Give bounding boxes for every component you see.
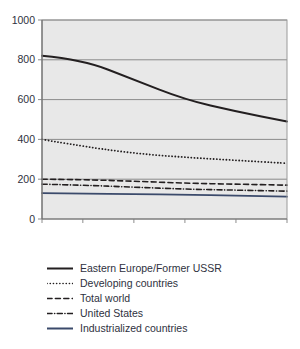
legend-label: Industrialized countries (80, 323, 187, 334)
legend-label: Eastern Europe/Former USSR (80, 263, 222, 274)
y-tick-label: 200 (17, 173, 35, 185)
chart-legend: Eastern Europe/Former USSRDeveloping cou… (47, 261, 297, 336)
legend-item: Total world (47, 291, 297, 306)
y-tick-label: 600 (17, 93, 35, 105)
legend-swatch-solid-icon (47, 263, 73, 274)
legend-item: Developing countries (47, 276, 297, 291)
plot-background (42, 20, 287, 219)
legend-label: Developing countries (80, 278, 178, 289)
x-axis-ticks (42, 219, 287, 223)
legend-item: Eastern Europe/Former USSR (47, 261, 297, 276)
y-tick-label: 400 (17, 133, 35, 145)
legend-item: Industrialized countries (47, 321, 297, 336)
legend-label: Total world (80, 293, 130, 304)
y-tick-label: 1000 (12, 14, 36, 26)
y-tick-label: 800 (17, 53, 35, 65)
y-tick-label: 0 (29, 213, 35, 225)
legend-item: United States (47, 306, 297, 321)
chart-figure: 02004006008001000 2001200520102015202020… (0, 0, 300, 349)
y-tick-labels: 02004006008001000 (12, 14, 36, 225)
legend-swatch-dashdot-icon (47, 308, 73, 319)
legend-label: United States (80, 308, 143, 319)
legend-swatch-dashed-icon (47, 293, 73, 304)
legend-swatch-dotted-icon (47, 278, 73, 289)
legend-swatch-solid-icon (47, 323, 73, 334)
plot-area: 02004006008001000 2001200520102015202020… (0, 0, 300, 255)
plot-svg: 02004006008001000 2001200520102015202020… (0, 0, 300, 255)
